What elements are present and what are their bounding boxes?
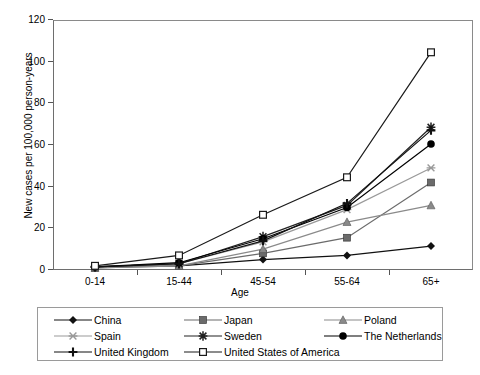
legend-marker-diamond (52, 313, 94, 327)
legend-item-united-states-of-america[interactable]: United States of America (182, 345, 322, 359)
data-point-asterisk (199, 331, 208, 341)
x-axis-label: Age (0, 287, 480, 298)
data-point-open-square (176, 252, 183, 259)
legend-marker-triangle (322, 313, 364, 327)
legend-label: China (94, 314, 121, 326)
legend-label: Sweden (224, 330, 262, 342)
legend-label: The Netherlands (364, 330, 442, 342)
data-point-circle (339, 332, 347, 340)
legend-label: Japan (224, 314, 253, 326)
legend-marker-plus (52, 345, 94, 359)
legend-row: ChinaJapanPoland (38, 312, 442, 328)
data-point-square (428, 179, 435, 186)
legend-item-china[interactable]: China (52, 313, 182, 327)
data-point-x-star (69, 333, 78, 340)
legend-item-spain[interactable]: Spain (52, 329, 182, 343)
legend-item-sweden[interactable]: Sweden (182, 329, 322, 343)
data-point-square (200, 317, 207, 324)
legend-item-japan[interactable]: Japan (182, 313, 322, 327)
legend-marker-square (182, 313, 224, 327)
data-point-square (344, 234, 351, 241)
data-point-open-square (344, 174, 351, 181)
legend-item-the-netherlands[interactable]: The Netherlands (322, 329, 442, 343)
data-point-open-square (428, 49, 435, 56)
data-point-open-square (200, 349, 207, 356)
legend-label: Poland (364, 314, 397, 326)
legend-label: United Kingdom (94, 346, 169, 358)
chart-legend: ChinaJapanPolandSpainSwedenThe Netherlan… (37, 307, 443, 361)
legend-marker-circle (322, 329, 364, 343)
data-point-open-square (92, 262, 99, 269)
chart-figure: New cases per 100,000 person-years 02040… (0, 0, 480, 375)
data-point-open-square (260, 211, 267, 218)
data-point-diamond (343, 251, 351, 259)
legend-label: Spain (94, 330, 121, 342)
data-point-plus (69, 348, 78, 357)
data-point-x-star (427, 165, 436, 172)
legend-marker-x-star (52, 329, 94, 343)
legend-item-united-kingdom[interactable]: United Kingdom (52, 345, 182, 359)
legend-item-poland[interactable]: Poland (322, 313, 442, 327)
legend-row: SpainSwedenThe Netherlands (38, 328, 442, 344)
legend-marker-asterisk (182, 329, 224, 343)
data-point-circle (427, 140, 435, 148)
legend-marker-open-square (182, 345, 224, 359)
legend-label: United States of America (224, 346, 340, 358)
data-point-diamond (427, 242, 435, 250)
legend-row: United KingdomUnited States of America (38, 344, 442, 360)
data-point-diamond (69, 316, 77, 324)
data-point-triangle (427, 201, 435, 209)
